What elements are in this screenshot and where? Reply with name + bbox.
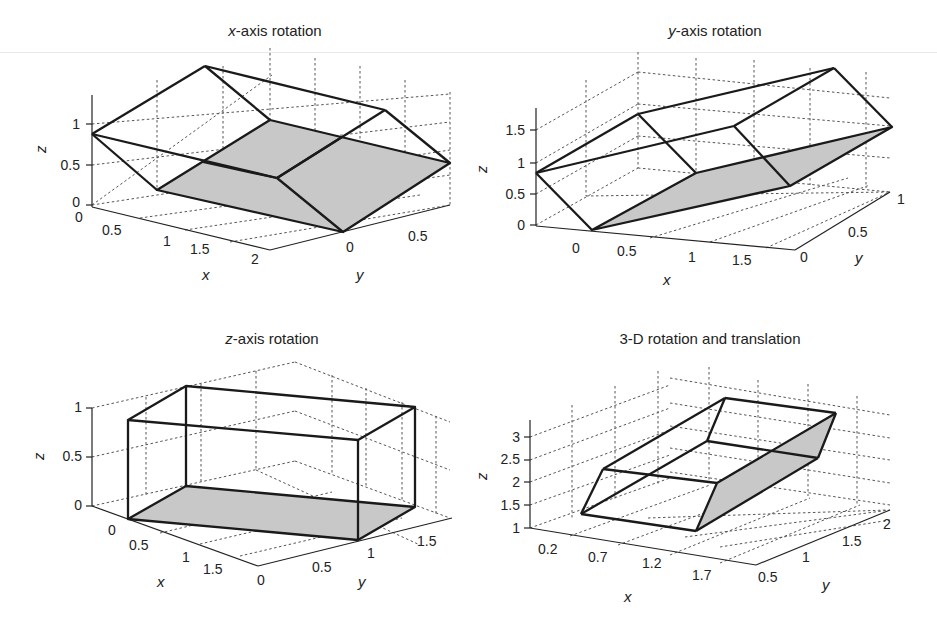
- y-tick: 1: [367, 545, 375, 561]
- gridlines: [530, 367, 890, 563]
- x-tick: 0: [572, 240, 580, 256]
- chart-z-axis-rotation: z-axis rotation 1 0.5 0 0 0.5: [0, 300, 468, 635]
- x-tick: 0: [75, 209, 83, 225]
- y-tick: 0.5: [408, 228, 428, 244]
- x-tick: 2: [251, 251, 259, 267]
- x-axis-label: x: [662, 271, 671, 288]
- x-tick: 1.2: [642, 555, 662, 571]
- z-tick: 1.5: [501, 497, 521, 513]
- z-axis-label: z: [473, 165, 490, 174]
- x-tick: 1.5: [190, 241, 210, 257]
- x-tick: 0.5: [129, 537, 149, 553]
- z-axis-label: z: [32, 145, 49, 154]
- x-tick: 0.7: [588, 549, 608, 565]
- x-tick: 1: [163, 233, 171, 249]
- y-tick: 0.5: [312, 559, 332, 575]
- z-tick: 1: [74, 399, 82, 415]
- z-tick: 0.5: [506, 186, 526, 202]
- plot-area: 3 2.5 2 1.5 1 0.2 0.7 1.2 1.7 0.5 1 1.5 …: [470, 300, 937, 635]
- x-tick: 1.7: [692, 567, 712, 583]
- chart-y-axis-rotation: y-axis rotation 1.5 1 0.5 0 0 0.5: [470, 0, 937, 300]
- y-tick: 1: [897, 191, 905, 207]
- plot-area: 1 0.5 0 0 0.5 1 1.5 2 0 0.5 x y z: [0, 0, 468, 300]
- y-tick: 0: [346, 239, 354, 255]
- y-axis-label: y: [821, 576, 831, 593]
- z-tick: 1: [72, 116, 80, 132]
- x-axis-label: x: [623, 588, 632, 605]
- z-tick: 1: [512, 520, 520, 536]
- y-axis-label: y: [355, 266, 365, 283]
- z-tick: 1: [517, 155, 525, 171]
- z-tick: 0.5: [61, 157, 81, 173]
- z-tick: 2.5: [501, 451, 521, 467]
- x-tick: 0.2: [538, 541, 558, 557]
- z-tick: 0: [517, 217, 525, 233]
- z-tick: 0: [74, 497, 82, 513]
- x-tick: 1: [688, 249, 696, 265]
- x-tick: 0.5: [102, 222, 122, 238]
- y-tick: 2: [883, 516, 891, 532]
- y-tick: 1.5: [417, 533, 437, 549]
- plot-area: 1.5 1 0.5 0 0 0.5 1 1.5 0 0.5 1 x y z: [470, 0, 937, 300]
- y-tick: 1: [802, 549, 810, 565]
- y-axis-label: y: [357, 573, 367, 590]
- y-tick: 0: [800, 249, 808, 265]
- z-tick: 0: [72, 194, 80, 210]
- chart-x-axis-rotation: x-axis rotation 1 0.5 0: [0, 0, 468, 300]
- x-tick: 0: [108, 522, 116, 538]
- z-tick: 2: [512, 474, 520, 490]
- z-tick: 3: [512, 429, 520, 445]
- x-axis-label: x: [156, 573, 165, 590]
- chart-3d-rotation-translation: 3-D rotation and translation 3 2.5: [470, 300, 937, 635]
- y-tick: 0.5: [758, 569, 778, 585]
- x-tick: 1: [182, 549, 190, 565]
- plot-area: 1 0.5 0 0 0.5 1 1.5 0 0.5 1 1.5 x y z: [0, 300, 468, 635]
- y-tick: 0: [257, 572, 265, 588]
- x-tick: 1.5: [732, 252, 752, 268]
- z-tick: 0.5: [63, 448, 83, 464]
- z-tick: 1.5: [506, 122, 526, 138]
- y-tick: 1.5: [842, 533, 862, 549]
- y-axis-label: y: [854, 249, 864, 266]
- x-tick: 0.5: [617, 243, 637, 259]
- y-tick: 0.5: [848, 224, 868, 240]
- x-tick: 1.5: [203, 561, 223, 577]
- x-axis-label: x: [201, 266, 210, 283]
- z-axis-label: z: [473, 472, 490, 481]
- z-axis-label: z: [30, 452, 47, 461]
